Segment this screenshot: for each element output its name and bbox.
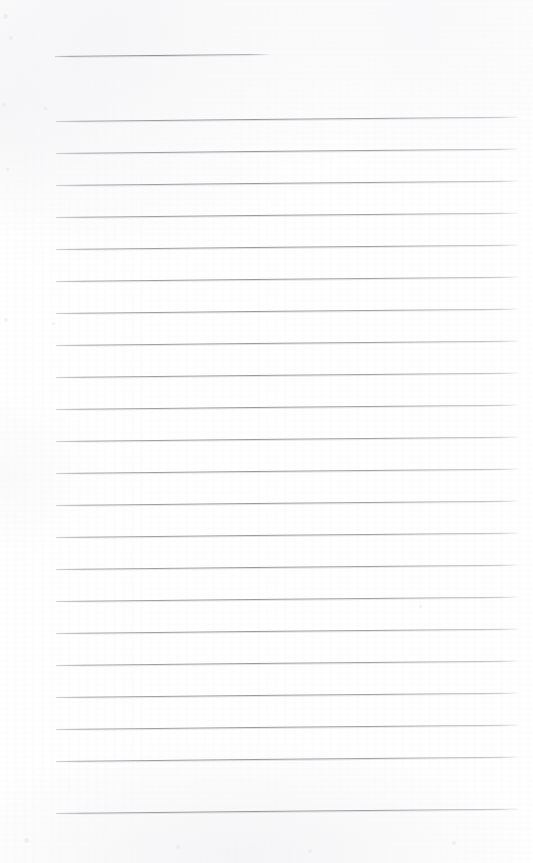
notepad-page [0, 0, 533, 863]
paper-background [0, 0, 533, 863]
